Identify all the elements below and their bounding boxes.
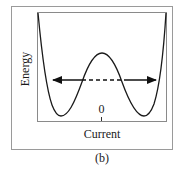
y-axis-label: Energy — [18, 52, 32, 86]
energy-curve — [38, 13, 166, 116]
x-tick-label: 0 — [99, 102, 105, 116]
figure-caption: (b) — [95, 151, 109, 165]
x-axis-label: Current — [84, 127, 121, 141]
double-well-plot: 0 Current Energy (b) — [0, 0, 181, 177]
double-well-figure: 0 Current Energy (b) — [0, 0, 181, 177]
